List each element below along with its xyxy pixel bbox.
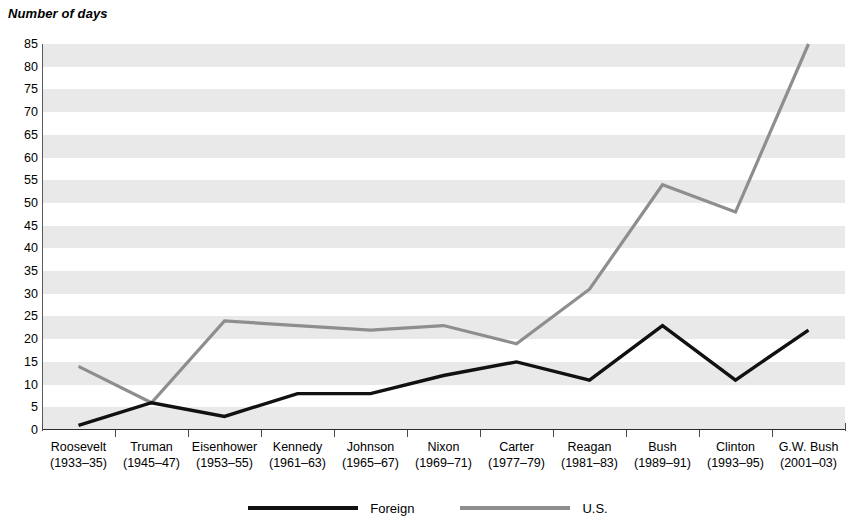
x-axis-tick-years: (1969–71) (407, 456, 480, 472)
x-axis-tick-mark (480, 430, 481, 437)
y-axis-tick-label: 15 (4, 356, 38, 368)
x-axis-tick-label: Reagan(1981–83) (553, 440, 626, 471)
x-axis-tick-name: Roosevelt (42, 440, 115, 456)
grid-band (42, 89, 845, 112)
x-axis-tick-name: Kennedy (261, 440, 334, 456)
x-axis-tick-years: (1977–79) (480, 456, 553, 472)
y-axis-tick-label: 85 (4, 38, 38, 50)
grid-band (42, 180, 845, 203)
line-swatch-gray-icon (460, 506, 570, 510)
chart-legend: Foreign U.S. (0, 496, 856, 520)
x-axis-tick-label: G.W. Bush(2001–03) (772, 440, 845, 471)
x-axis-tick-label: Nixon(1969–71) (407, 440, 480, 471)
grid-band (42, 271, 845, 294)
legend-label-foreign: Foreign (370, 501, 414, 516)
y-axis-tick-label: 0 (4, 424, 38, 436)
x-axis-tick-years: (1981–83) (553, 456, 626, 472)
x-axis-tick-label: Truman(1945–47) (115, 440, 188, 471)
y-axis-tick-label: 30 (4, 288, 38, 300)
x-axis-tick-years: (1933–35) (42, 456, 115, 472)
y-axis-tick-label: 5 (4, 401, 38, 413)
x-axis-tick-name: Carter (480, 440, 553, 456)
x-axis-tick-years: (1989–91) (626, 456, 699, 472)
x-axis-tick-label: Kennedy(1961–63) (261, 440, 334, 471)
grid-band (42, 362, 845, 385)
y-axis-tick-label: 65 (4, 129, 38, 141)
x-axis-tick-label: Roosevelt(1933–35) (42, 440, 115, 471)
x-axis-tick-name: Reagan (553, 440, 626, 456)
legend-item-foreign: Foreign (248, 501, 414, 516)
y-axis-tick-label: 50 (4, 197, 38, 209)
legend-item-us: U.S. (460, 501, 607, 516)
x-axis-tick-mark (261, 430, 262, 437)
x-axis-tick-name: Nixon (407, 440, 480, 456)
y-axis-tick-label: 70 (4, 106, 38, 118)
plot-area (42, 44, 845, 430)
x-axis-tick-mark (334, 430, 335, 437)
y-axis-tick-label: 25 (4, 310, 38, 322)
x-axis-tick-years: (1953–55) (188, 456, 261, 472)
y-axis-tick-label: 10 (4, 379, 38, 391)
x-axis-tick-years: (1961–63) (261, 456, 334, 472)
x-axis-tick-mark (626, 430, 627, 437)
x-axis-tick-years: (1965–67) (334, 456, 407, 472)
x-axis-tick-name: G.W. Bush (772, 440, 845, 456)
y-axis-tick-label: 40 (4, 242, 38, 254)
x-axis-tick-label: Bush(1989–91) (626, 440, 699, 471)
grid-band (42, 226, 845, 249)
x-axis-tick-mark (772, 430, 773, 437)
x-axis-right-cap (845, 423, 846, 431)
grid-band (42, 316, 845, 339)
x-axis-left-cap (42, 423, 43, 431)
x-axis-tick-mark (553, 430, 554, 437)
x-axis-tick-name: Eisenhower (188, 440, 261, 456)
x-axis-tick-years: (1945–47) (115, 456, 188, 472)
grid-band (42, 407, 845, 430)
x-axis-tick-name: Bush (626, 440, 699, 456)
line-swatch-black-icon (248, 506, 358, 510)
y-axis-tick-label: 75 (4, 83, 38, 95)
grid-band (42, 135, 845, 158)
y-axis-tick-label: 20 (4, 333, 38, 345)
x-axis-tick-mark (115, 430, 116, 437)
x-axis-tick-mark (407, 430, 408, 437)
x-axis-tick-years: (1993–95) (699, 456, 772, 472)
x-axis-tick-label: Carter(1977–79) (480, 440, 553, 471)
y-axis-tick-label: 60 (4, 152, 38, 164)
y-axis-tick-label: 55 (4, 174, 38, 186)
x-axis-tick-name: Clinton (699, 440, 772, 456)
x-axis-tick-name: Johnson (334, 440, 407, 456)
y-axis-tick-label: 45 (4, 220, 38, 232)
x-axis-tick-label: Clinton(1993–95) (699, 440, 772, 471)
x-axis-tick-years: (2001–03) (772, 456, 845, 472)
legend-label-us: U.S. (582, 501, 607, 516)
y-axis-tick-label: 35 (4, 265, 38, 277)
grid-band (42, 44, 845, 67)
x-axis-tick-label: Johnson(1965–67) (334, 440, 407, 471)
x-axis-tick-mark (188, 430, 189, 437)
chart-container: Number of days 8580757065605550454035302… (0, 0, 856, 523)
x-axis-tick-label: Eisenhower(1953–55) (188, 440, 261, 471)
y-axis-tick-label: 80 (4, 61, 38, 73)
x-axis-tick-mark (699, 430, 700, 437)
x-axis-tick-name: Truman (115, 440, 188, 456)
y-axis-labels: 8580757065605550454035302520151050 (0, 0, 38, 523)
